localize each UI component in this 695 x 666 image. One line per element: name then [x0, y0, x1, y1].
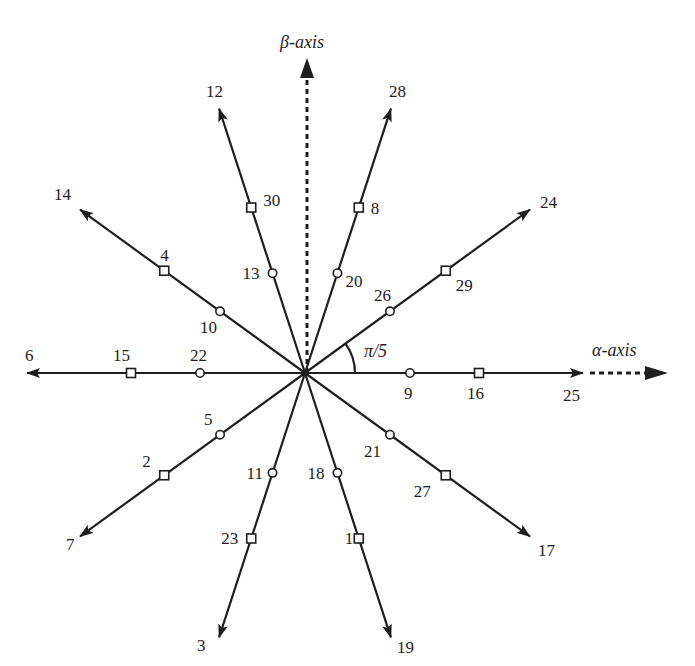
square-marker-label: 2: [142, 452, 151, 471]
square-marker-icon: [160, 471, 169, 480]
circle-marker-label: 9: [404, 384, 413, 403]
alpha-axis-label: α-axis: [592, 340, 636, 360]
vector-ray: 121330: [206, 82, 305, 373]
ray-tip-label: 24: [540, 193, 558, 212]
square-marker-icon: [354, 203, 363, 212]
square-marker-icon: [354, 534, 363, 543]
circle-marker-icon: [216, 307, 224, 315]
beta-axis: β-axis: [279, 32, 324, 373]
vector-ray: 25916: [305, 369, 583, 406]
square-marker-icon: [160, 266, 169, 275]
ray-tip-label: 25: [563, 386, 580, 405]
ray-tip-label: 7: [66, 535, 75, 554]
ray-line: [305, 210, 530, 373]
angle-indicator: π/5: [345, 341, 387, 373]
ray-line: [80, 373, 305, 536]
alpha-axis-arrowhead-icon: [645, 366, 668, 380]
angle-label: π/5: [364, 341, 387, 361]
square-marker-icon: [441, 471, 450, 480]
ray-tip-label: 17: [538, 541, 556, 560]
square-marker-icon: [247, 203, 256, 212]
ray-line: [305, 373, 530, 536]
circle-marker-icon: [196, 369, 204, 377]
circle-marker-icon: [386, 307, 394, 315]
square-marker-label: 30: [263, 191, 280, 210]
circle-marker-icon: [333, 269, 341, 277]
ray-line: [305, 109, 391, 373]
alpha-axis: α-axis: [590, 340, 668, 380]
square-marker-label: 4: [160, 246, 169, 265]
circle-marker-label: 13: [243, 264, 260, 283]
square-marker-icon: [247, 534, 256, 543]
square-marker-icon: [127, 369, 136, 378]
circle-marker-label: 22: [190, 346, 207, 365]
circle-marker-icon: [216, 431, 224, 439]
ray-line: [219, 109, 305, 373]
circle-marker-label: 20: [345, 272, 362, 291]
vector-ray: 14104: [54, 185, 305, 373]
space-vector-diagram: β-axis α-axis π/5 2591624262928208121330…: [0, 0, 695, 666]
circle-marker-label: 5: [204, 410, 213, 429]
ray-tip-label: 28: [389, 82, 406, 101]
vector-ray: 752: [66, 373, 305, 554]
ray-line: [219, 373, 305, 637]
circle-marker-icon: [406, 369, 414, 377]
circle-marker-label: 18: [307, 464, 324, 483]
ray-tip-label: 6: [25, 346, 34, 365]
circle-marker-icon: [268, 469, 276, 477]
ray-tip-label: 12: [206, 82, 223, 101]
circle-marker-icon: [333, 469, 341, 477]
angle-arc: [345, 344, 355, 373]
ray-line: [305, 373, 391, 637]
square-marker-label: 15: [113, 346, 130, 365]
vector-ray: 19181: [305, 373, 414, 657]
ray-tip-label: 14: [54, 185, 72, 204]
circle-marker-icon: [386, 431, 394, 439]
square-marker-icon: [441, 266, 450, 275]
vector-ray: 172127: [305, 373, 555, 560]
vector-ray: 62215: [25, 346, 305, 378]
square-marker-label: 27: [414, 482, 432, 501]
vector-ray: 28208: [305, 82, 406, 373]
circle-marker-label: 10: [200, 318, 217, 337]
ray-tip-label: 3: [197, 636, 206, 655]
circle-marker-label: 11: [247, 464, 263, 483]
circle-marker-label: 21: [364, 442, 381, 461]
circle-marker-icon: [268, 269, 276, 277]
square-marker-label: 8: [371, 199, 380, 218]
square-marker-label: 23: [221, 529, 238, 548]
ray-tip-label: 19: [397, 638, 414, 657]
origin-point: [302, 370, 308, 376]
square-marker-label: 1: [345, 529, 354, 548]
square-marker-label: 29: [456, 276, 473, 295]
beta-axis-arrowhead-icon: [300, 58, 314, 78]
square-marker-label: 16: [467, 384, 484, 403]
vector-ray: 242629: [305, 193, 557, 373]
vector-rays: 2591624262928208121330141046221575231123…: [25, 82, 583, 658]
square-marker-icon: [475, 369, 484, 378]
beta-axis-label: β-axis: [279, 32, 324, 52]
vector-ray: 31123: [197, 373, 305, 655]
circle-marker-label: 26: [374, 286, 391, 305]
